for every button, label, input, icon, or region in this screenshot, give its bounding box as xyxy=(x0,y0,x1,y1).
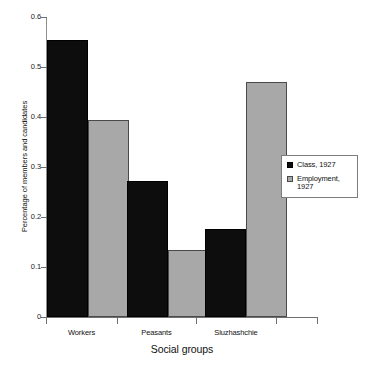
y-tick-label: 0.5 xyxy=(9,63,41,71)
x-tick-mark xyxy=(46,318,47,324)
legend-swatch-employment-icon xyxy=(287,176,293,182)
x-axis-title: Social groups xyxy=(46,343,318,355)
legend-swatch-class-icon xyxy=(287,162,293,168)
legend-item-employment: Employment, 1927 xyxy=(287,175,353,192)
bar-workers-employment xyxy=(88,120,129,317)
bar-chart: 00.10.20.30.40.50.6 Percentage of member… xyxy=(0,0,370,368)
x-category-label-sluzhashchie: Sluzhashchie xyxy=(196,328,276,337)
legend-item-class: Class, 1927 xyxy=(287,161,353,170)
x-category-label-workers: Workers xyxy=(46,328,117,337)
x-tick-mark xyxy=(196,318,197,324)
bar-peasants-class xyxy=(127,181,168,317)
y-tick-label: 0.1 xyxy=(9,263,41,271)
bar-workers-class xyxy=(47,40,88,317)
y-tick-label: 0 xyxy=(9,313,41,321)
x-tick-mark xyxy=(276,318,277,324)
x-tick-mark xyxy=(317,318,318,324)
x-axis-line xyxy=(46,317,318,318)
y-axis-title: Percentage of members and candidates xyxy=(20,87,29,247)
x-tick-mark xyxy=(117,318,118,324)
legend-label-class: Class, 1927 xyxy=(297,161,336,170)
y-tick-label: 0.6 xyxy=(9,13,41,21)
bar-sluzhashchie-employment xyxy=(246,82,287,317)
legend: Class, 1927 Employment, 1927 xyxy=(281,155,358,198)
legend-label-employment: Employment, 1927 xyxy=(297,175,340,192)
x-category-label-peasants: Peasants xyxy=(117,328,196,337)
bar-sluzhashchie-class xyxy=(205,229,246,317)
y-tick-mark xyxy=(41,17,47,18)
bar-peasants-employment xyxy=(168,250,209,317)
